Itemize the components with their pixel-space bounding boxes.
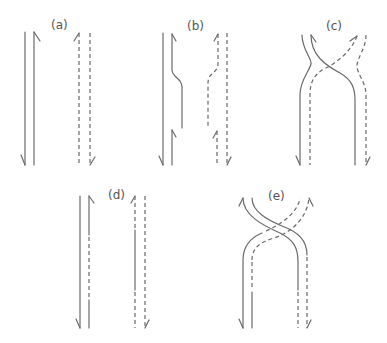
panel-c-label: (c) [326,19,342,33]
panel-b-dashed-arrow-down-icon [227,157,231,165]
panel-a-dashed-arrow-down-icon [90,157,95,165]
panel-e: (e) [239,189,313,328]
panel-c-solid-strand-crossing [311,35,355,165]
panel-a-label: (a) [51,18,68,32]
strand-exchange-diagram: (a) (b) (c) (d) [0,0,387,343]
panel-b: (b) [159,19,231,165]
panel-a-dashed-arrow-up-icon [74,33,79,41]
panel-e-arrow-up-left-icon [239,198,243,206]
panel-b-arrow-up-lower-icon [172,130,176,137]
panel-e-arrow-up-right-icon [309,198,313,206]
panel-a-arrow-up-icon [34,32,40,41]
panel-a: (a) [21,18,95,165]
panel-c: (c) [296,19,370,165]
panel-b-dashed-strand-up-displaced [208,34,218,128]
panel-d-arrow-up-icon [89,196,94,203]
panel-c-dashed-strand-down [357,35,366,165]
panel-d-dashed-arrow-down-icon [145,320,149,328]
panel-d-label: (d) [108,188,125,202]
panel-e-solid-strand-a-crossing [243,198,298,290]
panel-e-label: (e) [268,189,285,203]
panel-d: (d) [76,188,149,328]
panel-e-dashed-strand-d-upper [252,198,309,260]
panel-e-solid-strand-b-crossing [252,198,307,255]
panel-b-label: (b) [187,19,204,33]
panel-b-solid-strand-up-displaced [172,34,182,128]
